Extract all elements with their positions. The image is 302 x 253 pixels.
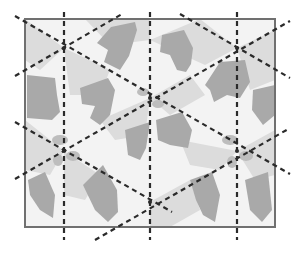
tessellation-diagram <box>0 0 302 253</box>
